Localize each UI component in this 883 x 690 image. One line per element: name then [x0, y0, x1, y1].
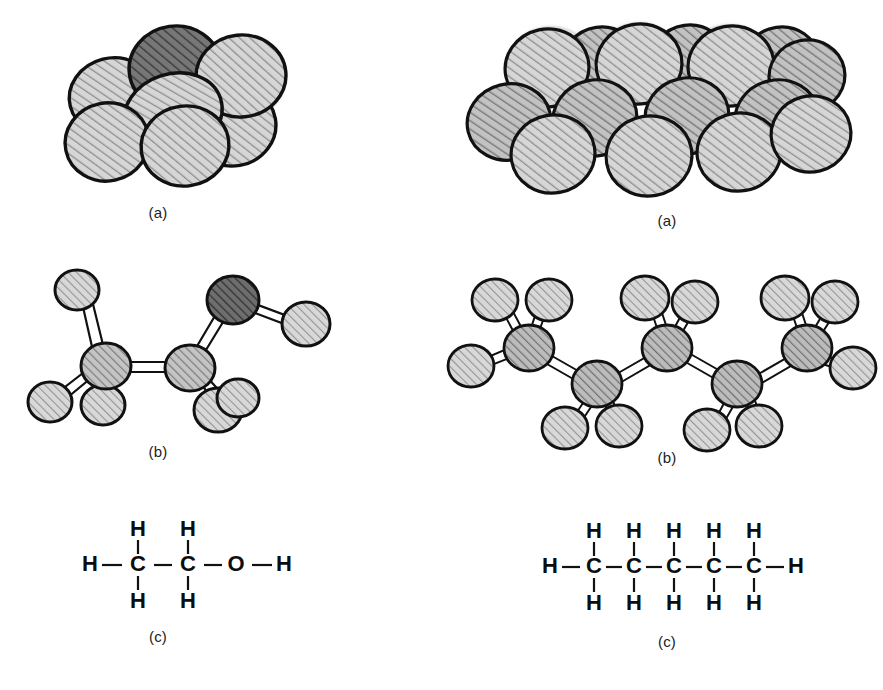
right-sf-chain-3: C	[666, 553, 682, 578]
left-sf-chain-2: C	[180, 551, 196, 576]
left-column-ethanol: (a)	[0, 0, 441, 690]
molecular-models-figure: (a)	[0, 0, 883, 690]
left-sf-chain-4: H	[276, 551, 292, 576]
left-sf-chain-0: H	[82, 551, 98, 576]
left-sf-chain-3: O	[227, 551, 244, 576]
right-sf-chain-1: C	[586, 553, 602, 578]
right-sf-bottom-h-1: H	[626, 590, 642, 615]
right-sf-chain-4: C	[706, 553, 722, 578]
left-sf-bottom-h-1: H	[180, 588, 196, 613]
right-ball-and-stick-model	[461, 268, 861, 438]
caption-right-a: (a)	[637, 212, 697, 229]
right-sf-bottom-h-0: H	[586, 590, 602, 615]
caption-left-a: (a)	[128, 204, 188, 221]
right-sf-chain-0: H	[542, 553, 558, 578]
left-sf-top-h-0: H	[130, 516, 146, 541]
right-sf-top-h-3: H	[706, 518, 722, 543]
left-sf-chain-1: C	[130, 551, 146, 576]
right-sf-chain-6: H	[788, 553, 804, 578]
right-sf-top-h-4: H	[746, 518, 762, 543]
right-structural-formula: H H H H H H C C C C C H H H H H H	[536, 512, 816, 622]
caption-left-b: (b)	[128, 443, 188, 460]
right-column-pentane: (a)	[441, 0, 883, 690]
left-structural-formula: H H H C C O H H H	[60, 510, 320, 620]
right-sf-bottom-h-2: H	[666, 590, 682, 615]
left-ball-and-stick-model	[40, 262, 340, 432]
right-sf-top-h-2: H	[666, 518, 682, 543]
caption-right-b: (b)	[637, 449, 697, 466]
right-sf-chain-2: C	[626, 553, 642, 578]
right-sf-bottom-h-4: H	[746, 590, 762, 615]
right-sf-top-h-1: H	[626, 518, 642, 543]
left-space-filling-model	[55, 18, 305, 198]
left-sf-top-h-1: H	[180, 516, 196, 541]
left-sf-bottom-h-0: H	[130, 588, 146, 613]
right-space-filling-model	[443, 18, 843, 198]
right-sf-top-h-0: H	[586, 518, 602, 543]
right-sf-chain-5: C	[746, 553, 762, 578]
caption-right-c: (c)	[637, 633, 697, 650]
right-sf-bottom-h-3: H	[706, 590, 722, 615]
caption-left-c: (c)	[128, 628, 188, 645]
